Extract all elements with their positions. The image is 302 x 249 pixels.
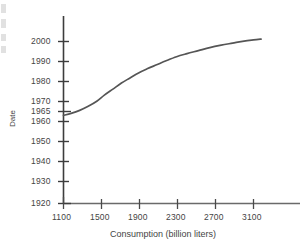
y-tick-label-1990: 1990 (31, 56, 51, 66)
data-series-line (64, 39, 262, 115)
y-tick-label-1950: 1950 (31, 136, 51, 146)
x-tick-label-2300: 2300 (166, 212, 186, 222)
y-tick-label-1965: 1965 (31, 106, 51, 116)
x-axis-title: Consumption (billion liters) (63, 229, 263, 239)
y-tick-label-1940: 1940 (31, 156, 51, 166)
y-tick-label-1960: 1960 (31, 116, 51, 126)
y-tick-label-1930: 1930 (31, 176, 51, 186)
y-tick-label-1970: 1970 (31, 96, 51, 106)
page-edge-artifact-1 (1, 4, 6, 13)
page-edge-artifact-4 (1, 46, 6, 53)
y-tick-label-1920: 1920 (31, 198, 51, 208)
x-tick-label-1100: 1100 (52, 212, 71, 222)
y-tick-label-1980: 1980 (31, 76, 51, 86)
axis-lines (64, 16, 301, 204)
y-axis-title: Date (8, 99, 17, 139)
y-tick-label-2000: 2000 (31, 36, 51, 46)
y-axis-ticks (58, 42, 71, 204)
chart-figure: Date 2000 1990 1980 1970 1965 1960 1950 … (0, 0, 302, 249)
x-tick-label-3100: 3100 (242, 212, 262, 222)
x-tick-label-2700: 2700 (204, 212, 224, 222)
page-edge-artifact-2 (1, 19, 6, 28)
page-edge-artifact-3 (1, 34, 6, 41)
x-tick-label-1500: 1500 (90, 212, 110, 222)
x-tick-label-1900: 1900 (128, 212, 148, 222)
